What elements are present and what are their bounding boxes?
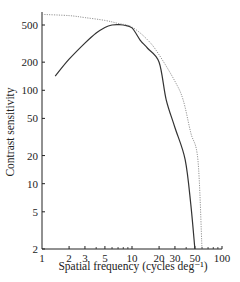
y-tick-label: 20 <box>27 150 39 162</box>
y-tick-label: 5 <box>33 206 39 218</box>
y-tick-label: 500 <box>22 19 39 31</box>
contrast-sensitivity-chart: 25102050100200500 123510203050100 Spatia… <box>0 0 240 282</box>
series-layer <box>42 14 202 249</box>
y-tick-label: 10 <box>27 178 39 190</box>
plot-area: 25102050100200500 123510203050100 <box>22 12 231 264</box>
y-tick-label: 100 <box>22 84 39 96</box>
dotted-curve <box>42 14 202 249</box>
y-tick-label: 2 <box>33 243 39 255</box>
y-axis-title: Contrast sensitivity <box>4 87 17 176</box>
y-ticks: 25102050100200500 <box>22 19 46 255</box>
x-axis-title: Spatial frequency (cycles deg⁻¹) <box>58 260 207 273</box>
x-tick-label: 100 <box>214 252 231 264</box>
y-tick-label: 50 <box>27 112 39 124</box>
solid-curve <box>55 25 195 249</box>
y-tick-label: 200 <box>22 56 39 68</box>
x-tick-label: 1 <box>39 252 45 264</box>
